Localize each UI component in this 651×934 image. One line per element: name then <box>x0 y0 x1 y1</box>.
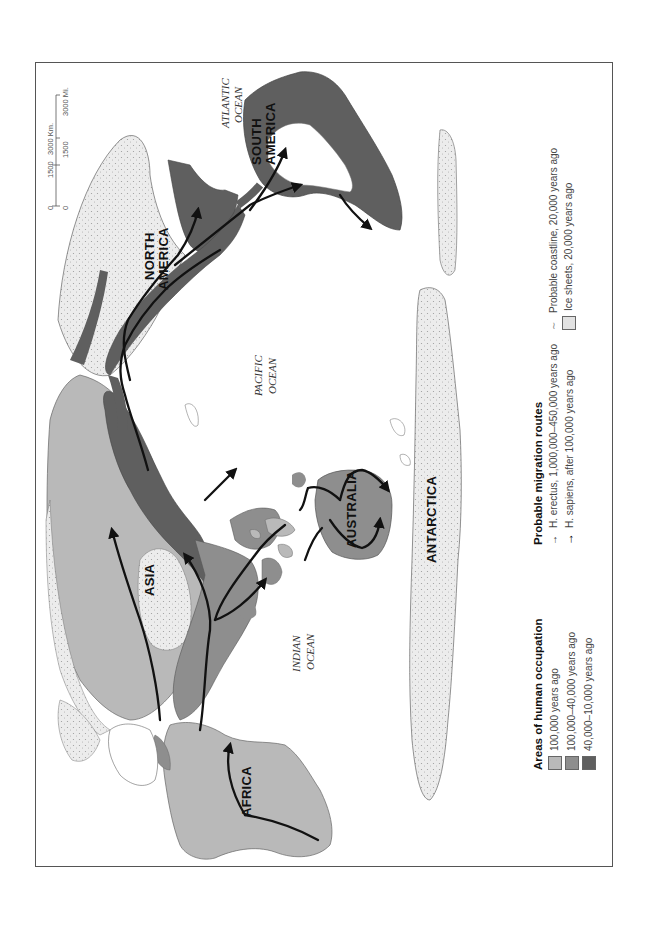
legend-item-occ-40k-10k: 40,000–10,000 years ago <box>582 619 596 770</box>
label-africa: AFRICA <box>240 766 253 817</box>
legend-item-occ-100k: 100,000 years ago <box>548 619 562 770</box>
label-north-america-1: NORTH <box>143 232 156 280</box>
scale-mi-1500: 1500 <box>61 141 70 158</box>
label-pacific-ocean-2: OCEAN <box>266 358 278 394</box>
label-atlantic-ocean-1: ATLANTIC <box>219 78 231 128</box>
scale-km-0: 0 <box>46 206 55 210</box>
label-north-america-2: AMERICA <box>157 227 170 290</box>
pacific-islands <box>185 404 410 466</box>
scale-mi-0: 0 <box>61 206 70 210</box>
legend-item-sapiens: →H. sapiens, after 100,000 years ago <box>562 344 576 545</box>
legend-item-occ-100k-40k: 100,000–40,000 years ago <box>565 619 579 770</box>
label-australia: AUSTRALIA <box>345 470 358 548</box>
antarctica-landmass <box>410 130 462 800</box>
legend-item-coastline: ∼Probable coastline, 20,000 years ago <box>548 148 559 330</box>
swatch-100k-40k <box>565 756 579 770</box>
scale-km-1500: 1500 <box>46 161 55 178</box>
legend-migration: Probable migration routes →H. erectus, 1… <box>532 344 576 545</box>
label-atlantic-ocean-2: OCEAN <box>232 87 244 123</box>
label-indian-ocean-1: INDIAN <box>290 635 302 672</box>
label-pacific-ocean-1: PACIFIC <box>252 355 264 396</box>
label-south-america-1: SOUTH <box>250 118 263 165</box>
legend-occupation: Areas of human occupation 100,000 years … <box>532 619 596 770</box>
label-antarctica: ANTARCTICA <box>425 476 438 563</box>
arrow-erectus-icon: → <box>548 533 559 545</box>
legend-other: ∼Probable coastline, 20,000 years ago Ic… <box>548 148 576 330</box>
swatch-ice-sheets <box>562 316 576 330</box>
arrow-sapiens-icon: → <box>562 533 576 545</box>
legend-occupation-title: Areas of human occupation <box>532 619 544 770</box>
legend-item-ice-sheets: Ice sheets, 20,000 years ago <box>562 148 576 330</box>
scale-km-3000: 3000 Km. <box>46 123 55 155</box>
label-south-america-2: AMERICA <box>264 102 277 165</box>
swatch-100k <box>548 756 562 770</box>
label-indian-ocean-2: OCEAN <box>304 634 316 670</box>
legend-migration-title: Probable migration routes <box>532 344 544 545</box>
australia-landmass <box>292 470 392 559</box>
legend-item-erectus: →H. erectus, 1,000,000–450,000 years ago <box>548 344 559 545</box>
scale-mi-3000: 3000 Mi. <box>61 87 70 116</box>
coastline-line-icon: ∼ <box>548 318 559 330</box>
swatch-40k-10k <box>582 756 596 770</box>
label-asia: ASIA <box>143 564 156 596</box>
